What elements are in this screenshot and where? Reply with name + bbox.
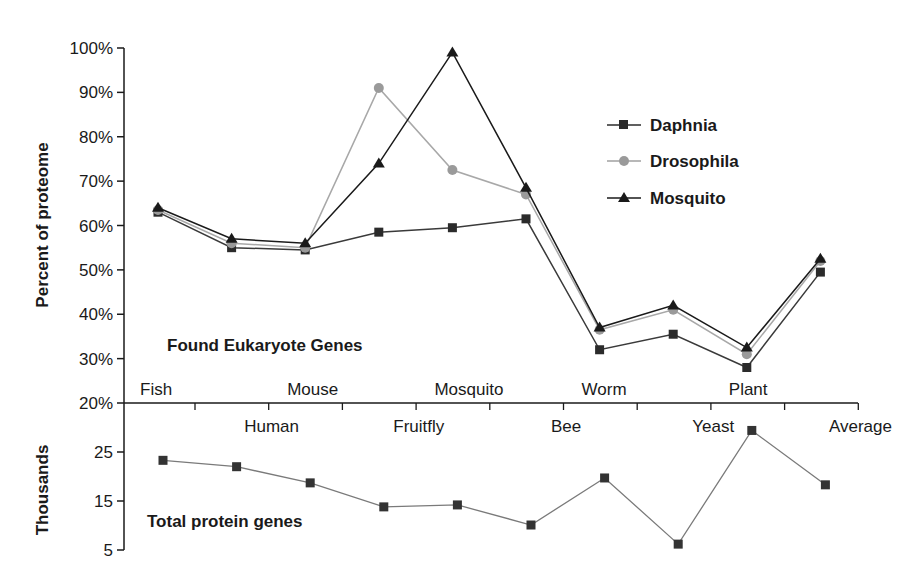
top-y-tick-label: 80% (79, 128, 113, 147)
top-y-tick-label: 40% (79, 305, 113, 324)
square-marker-icon (816, 268, 825, 277)
x-category-label: Average (829, 417, 892, 436)
legend-item-drosophila: Drosophila (607, 152, 739, 171)
bottom-y-axis-title: Thousands (33, 445, 52, 536)
chart-canvas: 20%30%40%50%60%70%80%90%100% 51525 FishH… (0, 0, 901, 583)
triangle-marker-icon (618, 192, 630, 202)
top-y-tick-label: 30% (79, 350, 113, 369)
top-y-axis: 20%30%40%50%60%70%80%90%100% (70, 39, 124, 413)
triangle-marker-icon (152, 202, 164, 212)
bottom-y-tick-label: 25 (94, 443, 113, 462)
legend: Daphnia Drosophila Mosquito (607, 116, 739, 208)
x-category-label: Fruitfly (393, 417, 445, 436)
square-marker-icon (747, 426, 756, 435)
square-marker-icon (527, 521, 536, 530)
triangle-marker-icon (667, 299, 679, 309)
square-marker-icon (674, 540, 683, 549)
square-marker-icon (742, 363, 751, 372)
square-marker-icon (306, 478, 315, 487)
square-marker-icon (821, 480, 830, 489)
top-y-tick-label: 100% (70, 39, 113, 58)
x-category-label: Bee (551, 417, 581, 436)
square-marker-icon (595, 345, 604, 354)
bottom-y-tick-label: 15 (94, 492, 113, 511)
legend-label-daphnia: Daphnia (650, 116, 718, 135)
square-marker-icon (669, 330, 678, 339)
legend-label-drosophila: Drosophila (650, 152, 739, 171)
square-marker-icon (522, 214, 531, 223)
circle-marker-icon (619, 156, 629, 166)
series-drosophila (153, 83, 825, 359)
top-y-axis-title: Percent of proteome (33, 142, 52, 307)
top-annotation: Found Eukaryote Genes (167, 336, 363, 355)
x-axis: FishHumanMouseFruitflyMosquitoBeeWormYea… (124, 380, 892, 436)
top-y-tick-label: 60% (79, 217, 113, 236)
triangle-marker-icon (520, 182, 532, 192)
x-category-label: Human (244, 417, 299, 436)
x-category-label: Mouse (287, 380, 338, 399)
x-category-label: Worm (582, 380, 627, 399)
square-marker-icon (600, 473, 609, 482)
triangle-marker-icon (446, 46, 458, 56)
bottom-y-axis: 51525 (94, 403, 124, 560)
legend-item-mosquito: Mosquito (607, 189, 726, 208)
x-category-label: Yeast (692, 417, 734, 436)
top-plot-series (152, 46, 826, 372)
x-category-label: Plant (729, 380, 768, 399)
legend-label-mosquito: Mosquito (650, 189, 726, 208)
square-marker-icon (379, 502, 388, 511)
square-marker-icon (448, 223, 457, 232)
bottom-annotation: Total protein genes (147, 512, 303, 531)
triangle-marker-icon (373, 157, 385, 167)
square-marker-icon (619, 120, 628, 129)
triangle-marker-icon (814, 253, 826, 263)
square-marker-icon (232, 462, 241, 471)
square-marker-icon (159, 456, 168, 465)
bottom-y-tick-label: 5 (104, 541, 113, 560)
top-y-tick-label: 50% (79, 261, 113, 280)
circle-marker-icon (447, 165, 457, 175)
circle-marker-icon (374, 83, 384, 93)
top-y-tick-label: 70% (79, 172, 113, 191)
legend-item-daphnia: Daphnia (607, 116, 718, 135)
square-marker-icon (453, 500, 462, 509)
top-y-tick-label: 20% (79, 394, 113, 413)
x-category-label: Mosquito (434, 380, 503, 399)
square-marker-icon (374, 228, 383, 237)
top-y-tick-label: 90% (79, 83, 113, 102)
x-category-label: Fish (140, 380, 172, 399)
